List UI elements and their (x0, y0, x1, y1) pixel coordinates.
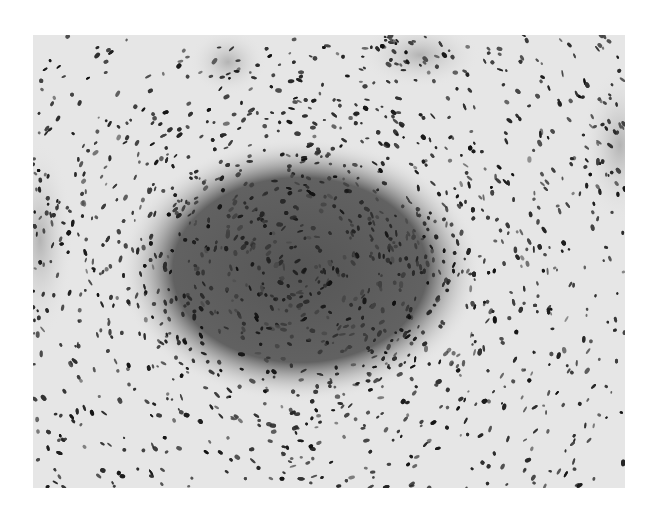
tissue-section (33, 35, 625, 488)
histology-micrograph (33, 35, 625, 488)
central-nodule (119, 138, 482, 402)
